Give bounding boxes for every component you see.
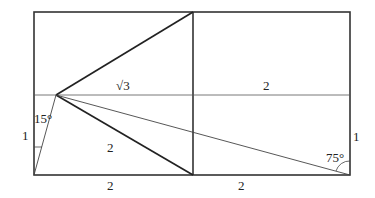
label-right-side: 1	[353, 129, 360, 144]
label-bottom-left: 2	[107, 178, 114, 193]
label-sqrt3: √3	[116, 78, 130, 93]
label-inner-segment: 2	[107, 140, 114, 155]
label-angle-left: 15°	[34, 111, 52, 126]
label-top-right-segment: 2	[263, 78, 270, 93]
apex-to-bottom-right	[56, 95, 350, 175]
apex-to-bottom-mid	[56, 95, 193, 175]
label-angle-right: 75°	[326, 150, 344, 165]
geometry-diagram: √3 2 1 1 2 2 2 15° 75°	[0, 0, 375, 198]
label-bottom-right: 2	[238, 178, 245, 193]
apex-to-bottom-left	[34, 95, 56, 175]
outer-rectangle	[34, 12, 350, 175]
label-left-side: 1	[22, 128, 29, 143]
